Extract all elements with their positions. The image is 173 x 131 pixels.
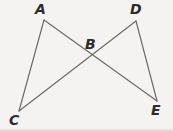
geometry-figure: A D B C E [0, 0, 173, 131]
segment-ae [44, 20, 157, 101]
segment-de [136, 21, 157, 101]
vertex-label-c: C [9, 113, 19, 127]
vertex-label-a: A [35, 2, 46, 16]
segment-ac [19, 20, 44, 111]
bottom-edge-shadow [0, 129, 173, 131]
vertex-label-b: B [85, 37, 96, 51]
diagram-canvas [0, 0, 173, 131]
segment-dc [19, 21, 136, 111]
vertex-label-e: E [151, 103, 161, 117]
vertex-label-d: D [130, 2, 142, 16]
